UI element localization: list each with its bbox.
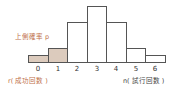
success-count-label: r( 成功回数 ) — [8, 75, 48, 85]
tick-4: 4 — [106, 65, 126, 73]
bar-3 — [87, 6, 107, 63]
bar-0 — [28, 55, 49, 63]
bar-4 — [106, 22, 127, 63]
bar-5 — [126, 48, 146, 63]
tick-5: 5 — [126, 65, 146, 73]
tick-3: 3 — [87, 65, 107, 73]
tick-1: 1 — [48, 65, 68, 73]
trial-count-label: n( 試行回数 ) — [123, 75, 164, 85]
bar-1 — [48, 48, 68, 63]
tick-2: 2 — [67, 65, 87, 73]
upper-tail-probability-label: 上側確率 p — [15, 31, 49, 41]
tick-0: 0 — [28, 65, 48, 73]
bar-6 — [145, 55, 166, 63]
bar-2 — [67, 22, 88, 63]
tick-6: 6 — [145, 65, 165, 73]
